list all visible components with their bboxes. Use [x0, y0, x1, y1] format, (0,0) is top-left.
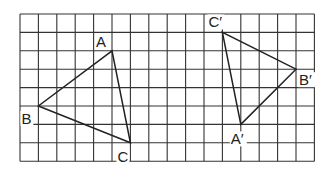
vertex-label: A [96, 33, 106, 50]
vertex-label: A′ [231, 130, 244, 147]
vertex-label: B′ [299, 71, 312, 88]
grid-diagram: ABCA′B′C′ [0, 0, 333, 179]
triangle-ABC [38, 51, 130, 143]
vertex-label: C [117, 148, 128, 165]
vertex-label: C′ [208, 13, 222, 30]
vertex-label: B [21, 110, 31, 127]
